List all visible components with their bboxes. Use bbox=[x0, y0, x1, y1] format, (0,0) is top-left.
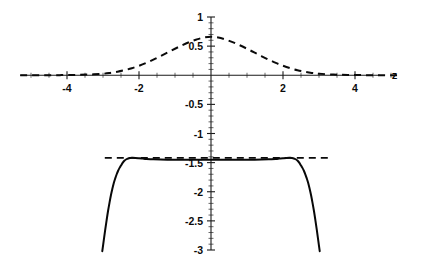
x-tick-label: -4 bbox=[62, 82, 71, 94]
x-tick-label: 4 bbox=[352, 82, 358, 94]
y-tick-label: -2 bbox=[194, 186, 203, 198]
plot-canvas: -4-224 10.5-0.5-1-1.5-2-2.5-3 z bbox=[0, 0, 429, 260]
y-tick-label: -0.5 bbox=[185, 98, 203, 110]
y-tick-label: -1 bbox=[194, 128, 203, 140]
y-tick-label: 0.5 bbox=[188, 40, 203, 52]
chart-figure: -4-224 10.5-0.5-1-1.5-2-2.5-3 z bbox=[0, 0, 429, 260]
y-tick-label: 1 bbox=[197, 11, 203, 23]
x-tick-label: -2 bbox=[134, 82, 143, 94]
x-tick-label: 2 bbox=[280, 82, 286, 94]
y-tick-label: -2.5 bbox=[185, 215, 203, 227]
y-tick-label: -3 bbox=[194, 244, 203, 256]
x-axis-label: z bbox=[392, 69, 398, 81]
